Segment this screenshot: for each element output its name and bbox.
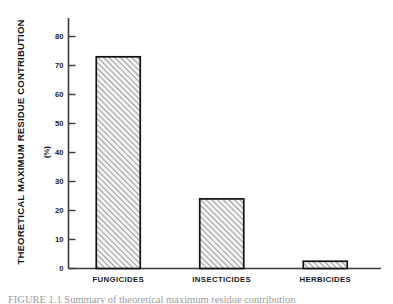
y-axis-tick-label: 20 bbox=[55, 206, 63, 215]
x-axis-category-labels: FUNGICIDESINSECTICIDESHERBICIDES bbox=[92, 275, 351, 284]
figure-caption-clip: FIGURE 1.1 Summary of theoretical maximu… bbox=[0, 295, 393, 304]
y-axis-tick-label: 40 bbox=[55, 148, 63, 157]
figure-container: THEORETICAL MAXIMUM RESIDUE CONTRIBUTION… bbox=[0, 0, 393, 304]
bar bbox=[200, 199, 244, 269]
y-axis-tick-label: 10 bbox=[55, 235, 63, 244]
bar bbox=[303, 261, 347, 268]
x-axis-category-label: HERBICIDES bbox=[299, 275, 351, 284]
figure-caption: FIGURE 1.1 Summary of theoretical maximu… bbox=[8, 295, 296, 304]
y-axis-tick-label: 60 bbox=[55, 90, 63, 99]
bar bbox=[96, 57, 140, 269]
x-axis-category-label: INSECTICIDES bbox=[192, 275, 251, 284]
y-axis-tick-label: 70 bbox=[55, 61, 63, 70]
y-axis-unit-label: (%) bbox=[42, 146, 51, 158]
y-axis-tick-label: 50 bbox=[55, 119, 63, 128]
bar-chart: THEORETICAL MAXIMUM RESIDUE CONTRIBUTION… bbox=[0, 0, 393, 304]
x-axis-category-label: FUNGICIDES bbox=[92, 275, 144, 284]
y-axis-tick-label: 80 bbox=[55, 32, 63, 41]
y-axis-tick-label: 30 bbox=[55, 177, 63, 186]
y-axis-title: THEORETICAL MAXIMUM RESIDUE CONTRIBUTION bbox=[15, 19, 26, 264]
y-axis-tick-label: 0 bbox=[59, 264, 63, 273]
